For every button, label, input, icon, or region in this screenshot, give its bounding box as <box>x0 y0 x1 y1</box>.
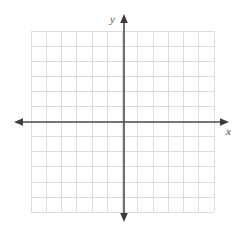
y-axis-arrow-down <box>120 213 128 222</box>
y-axis-label: y <box>110 14 115 25</box>
coordinate-plane: y x <box>0 0 241 234</box>
x-axis-arrow-left <box>14 118 23 126</box>
x-axis-label: x <box>226 126 231 137</box>
y-axis-arrow-up <box>120 14 128 23</box>
axes <box>0 0 241 234</box>
